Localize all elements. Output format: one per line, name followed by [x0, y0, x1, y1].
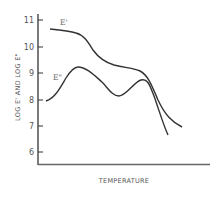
- y-tick-10: 10: [24, 43, 34, 52]
- y-tick-6: 6: [29, 148, 34, 157]
- chart: 11 10 9 8 7 6 LOG E' AND LOG E" TEMPERAT…: [0, 0, 218, 197]
- y-tick-11: 11: [24, 16, 34, 25]
- e-double-prime-curve: [46, 67, 168, 135]
- y-tick-7: 7: [29, 122, 34, 131]
- y-tick-8: 8: [29, 96, 34, 105]
- e-prime-curve: [50, 29, 182, 127]
- e-double-prime-label: E": [53, 73, 62, 82]
- y-tick-labels: 11 10 9 8 7 6: [24, 16, 34, 157]
- x-axis-label: TEMPERATURE: [98, 177, 150, 185]
- y-ticks: [38, 20, 43, 152]
- e-prime-label: E': [60, 18, 68, 27]
- y-tick-9: 9: [29, 69, 34, 78]
- y-axis-label: LOG E' AND LOG E": [14, 53, 22, 121]
